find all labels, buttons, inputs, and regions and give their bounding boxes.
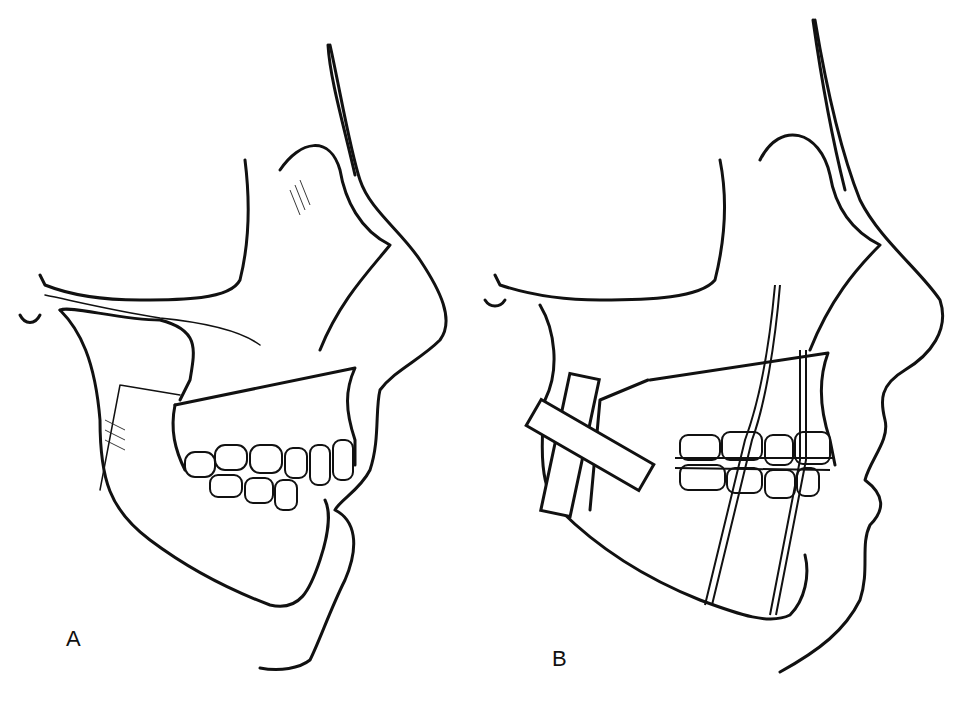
panel-b-drawing: [485, 20, 943, 672]
panel-label-a: A: [66, 626, 81, 652]
panel-a-drawing: [20, 45, 446, 670]
illustration: [0, 0, 954, 701]
panel-label-b: B: [552, 646, 567, 672]
figure: A B: [0, 0, 954, 701]
